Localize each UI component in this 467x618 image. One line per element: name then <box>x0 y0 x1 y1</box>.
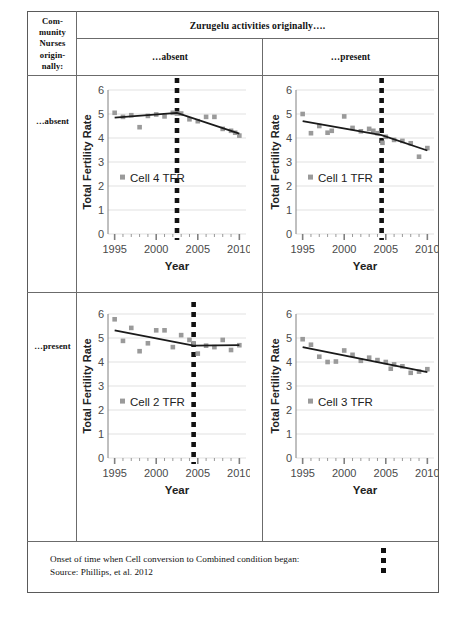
legend-label: Cell 3 TFR <box>318 396 373 408</box>
data-point-marker <box>325 360 330 365</box>
legend-label: Cell 4 TFR <box>130 172 185 184</box>
data-point-marker <box>162 114 167 119</box>
data-point-marker <box>129 326 134 331</box>
x-tick-label: 2005 <box>374 467 398 479</box>
x-tick-label: 2000 <box>332 467 356 479</box>
data-point-marker <box>367 127 372 132</box>
y-tick-label: 4 <box>286 356 292 368</box>
legend-marker-icon <box>120 399 125 404</box>
column-header-absent-label: …absent <box>152 52 188 62</box>
data-point-marker <box>334 359 339 364</box>
data-point-marker <box>154 328 159 333</box>
y-tick-label: 4 <box>98 132 104 144</box>
data-point-marker <box>425 367 430 372</box>
trend-line <box>303 347 428 372</box>
y-tick-label: 6 <box>98 84 104 96</box>
legend-label: Cell 1 TFR <box>318 172 373 184</box>
x-tick-label: 2005 <box>186 467 210 479</box>
data-point-marker <box>388 366 393 371</box>
column-header-absent: …absent <box>77 38 263 75</box>
data-point-marker <box>229 348 234 353</box>
x-axis-label: Year <box>353 484 378 496</box>
data-point-marker <box>417 154 422 159</box>
chart-panel-cell3: 01234561995200020052010YearTotal Fertili… <box>266 300 438 510</box>
data-point-marker <box>317 354 322 359</box>
y-tick-label: 4 <box>98 356 104 368</box>
y-tick-label: 0 <box>286 452 292 464</box>
data-point-marker <box>325 130 330 135</box>
y-tick-label: 2 <box>98 180 104 192</box>
y-tick-label: 2 <box>98 404 104 416</box>
figure-page: Com-munityNursesorigin-nally: Zurugelu a… <box>0 0 467 618</box>
data-point-marker <box>342 348 347 353</box>
y-tick-label: 3 <box>286 380 292 392</box>
corner-header-label: Com-munityNursesorigin-nally: <box>39 16 66 72</box>
chart-panel-cell4: 01234561995200020052010YearTotal Fertili… <box>78 76 250 286</box>
x-tick-label: 2005 <box>186 243 210 255</box>
row-header-present-label: …present <box>34 341 70 351</box>
y-tick-label: 3 <box>98 380 104 392</box>
chart-canvas: 01234561995200020052010YearTotal Fertili… <box>78 76 250 286</box>
row-header-absent: …absent <box>29 110 76 132</box>
data-point-marker <box>342 114 347 119</box>
y-tick-label: 3 <box>98 156 104 168</box>
y-axis-label: Total Fertility Rate <box>81 114 93 209</box>
data-point-marker <box>300 337 305 342</box>
data-point-marker <box>112 317 117 322</box>
x-tick-label: 2000 <box>332 243 356 255</box>
y-tick-label: 0 <box>98 452 104 464</box>
data-point-marker <box>179 333 184 338</box>
data-point-marker <box>212 115 217 120</box>
corner-header-cell: Com-munityNursesorigin-nally: <box>29 13 76 75</box>
x-tick-label: 2010 <box>227 243 250 255</box>
x-tick-label: 2010 <box>227 467 250 479</box>
data-point-marker <box>137 349 142 354</box>
data-point-marker <box>408 371 413 376</box>
dash-segment-icon <box>381 568 386 573</box>
y-tick-label: 2 <box>286 404 292 416</box>
y-axis-label: Total Fertility Rate <box>81 338 93 433</box>
data-point-marker <box>187 338 192 343</box>
y-tick-label: 1 <box>286 428 292 440</box>
rule-vertical-column-split <box>262 38 263 541</box>
x-tick-label: 1995 <box>290 243 314 255</box>
y-tick-label: 5 <box>98 332 104 344</box>
y-tick-label: 1 <box>286 204 292 216</box>
data-point-marker <box>146 341 151 346</box>
data-point-marker <box>195 351 200 356</box>
data-point-marker <box>371 129 376 134</box>
chart-canvas: 01234561995200020052010YearTotal Fertili… <box>266 300 438 510</box>
x-tick-label: 2000 <box>144 467 168 479</box>
column-header-present: …present <box>263 38 438 75</box>
chart-panel-cell1: 01234561995200020052010YearTotal Fertili… <box>266 76 438 286</box>
data-point-marker <box>204 115 209 120</box>
footer-source-text: Source: Phillips, et al. 2012 <box>50 566 380 579</box>
chart-canvas: 01234561995200020052010YearTotal Fertili… <box>266 76 438 286</box>
row-header-present: …present <box>29 335 76 357</box>
dash-segment-icon <box>381 558 386 563</box>
x-tick-label: 2010 <box>415 243 438 255</box>
y-tick-label: 6 <box>98 308 104 320</box>
data-point-marker <box>309 342 314 347</box>
y-tick-label: 0 <box>98 228 104 240</box>
y-tick-label: 5 <box>98 108 104 120</box>
data-point-marker <box>171 345 176 350</box>
footer-legend-text: Onset of time when Cell conversion to Co… <box>50 553 380 566</box>
data-point-marker <box>162 328 167 333</box>
x-tick-label: 2005 <box>374 243 398 255</box>
y-tick-label: 5 <box>286 108 292 120</box>
footer-text-block: Onset of time when Cell conversion to Co… <box>50 553 380 580</box>
y-tick-label: 6 <box>286 308 292 320</box>
dash-segment-icon <box>381 548 386 553</box>
y-axis-label: Total Fertility Rate <box>269 114 281 209</box>
x-tick-label: 2010 <box>415 467 438 479</box>
rule-horizontal-rowsplit <box>27 292 438 293</box>
legend-marker-icon <box>120 175 125 180</box>
column-header-main-label: Zurugelu activities originally…. <box>190 20 326 31</box>
data-point-marker <box>380 141 385 146</box>
y-tick-label: 1 <box>98 428 104 440</box>
y-tick-label: 3 <box>286 156 292 168</box>
column-header-main: Zurugelu activities originally…. <box>77 13 438 38</box>
x-axis-label: Year <box>353 260 378 272</box>
rule-horizontal-footer <box>27 541 438 542</box>
